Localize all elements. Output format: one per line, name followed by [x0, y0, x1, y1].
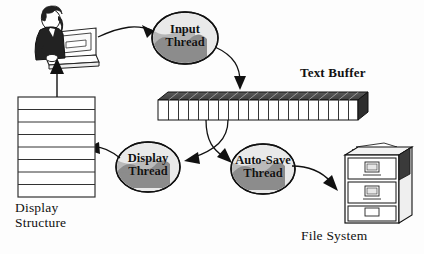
node-autosave-thread[interactable] [231, 144, 295, 194]
display-structure-label-line2: Structure [15, 215, 66, 230]
person-at-computer-icon [35, 6, 99, 69]
node-file-system[interactable] [345, 143, 412, 223]
edge-autosave-thread-to-file-system [292, 166, 338, 191]
display-structure-label: Display Structure [15, 200, 66, 230]
display-structure-label-line1: Display [15, 200, 66, 215]
text-buffer-label: Text Buffer [300, 65, 366, 81]
node-display-structure[interactable] [18, 97, 95, 197]
edge-input-thread-to-text-buffer [215, 47, 246, 90]
diagram-canvas: Input Thread Display Thread Auto-Save Th… [0, 0, 424, 254]
node-input-thread[interactable] [152, 12, 218, 64]
file-system-label: File System [301, 228, 367, 244]
node-display-thread[interactable] [116, 142, 180, 192]
node-text-buffer[interactable] [158, 92, 368, 120]
edge-user-to-input-thread [98, 25, 154, 38]
